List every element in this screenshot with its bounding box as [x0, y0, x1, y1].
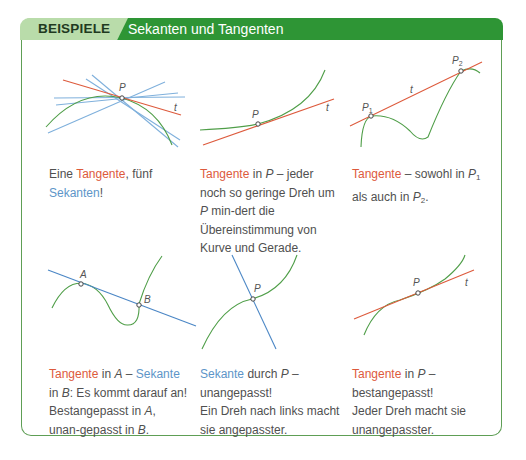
label-t: t: [174, 102, 178, 113]
tangent-term: Tangente: [76, 167, 125, 181]
caption-2: Tangente in P – jeder noch so geringe Dr…: [200, 165, 340, 258]
caption-1: Eine Tangente, fünfSekanten!: [49, 165, 184, 202]
caption-6: Tangente in P –bestangepasst!Jeder Dreh …: [352, 365, 492, 439]
secant-term: Sekanten: [49, 186, 100, 200]
figure-2: P t: [200, 70, 334, 145]
label-P: P: [119, 82, 126, 93]
caption-4: Tangente in A – Sekante in B: Es kommt d…: [49, 365, 189, 439]
label-P: P: [254, 283, 261, 294]
label-B: B: [144, 294, 151, 305]
tangent-term: Tangente: [49, 367, 98, 381]
label-t: t: [326, 102, 330, 113]
figure-1: P t: [46, 75, 185, 147]
caption-3: Tangente – sowohl in P1 als auch in P2.: [352, 165, 492, 210]
figure-6: P t: [354, 255, 474, 335]
figure-5: P: [202, 255, 297, 349]
tangent-term: Tangente: [352, 367, 401, 381]
label-A: A: [79, 269, 87, 280]
label-t: t: [410, 84, 414, 95]
label-P2: P2: [452, 55, 463, 67]
caption-5: Sekante durch P –unangepasst!Ein Dreh na…: [200, 365, 340, 439]
figure-3: P1 P2 t: [350, 55, 482, 147]
label-t: t: [465, 277, 469, 288]
secant-term: Sekante: [136, 367, 180, 381]
tangent-term: Tangente: [200, 167, 249, 181]
figure-4: A B: [48, 256, 196, 326]
secant-term: Sekante: [200, 367, 244, 381]
label-P1: P1: [362, 102, 373, 114]
label-P: P: [413, 277, 420, 288]
label-P: P: [252, 109, 259, 120]
tangent-term: Tangente: [352, 167, 401, 181]
